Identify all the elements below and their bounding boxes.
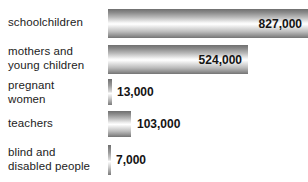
bar-value-label: 13,000 bbox=[117, 85, 154, 99]
category-label: mothers and young children bbox=[8, 45, 84, 72]
bar: 524,000 bbox=[108, 45, 248, 74]
bar-value-label: 524,000 bbox=[199, 53, 242, 67]
bar: 827,000 bbox=[108, 9, 308, 38]
bar bbox=[108, 111, 131, 137]
bar-track: 827,000 bbox=[108, 9, 308, 38]
category-label: pregnant women bbox=[8, 79, 54, 106]
horizontal-bar-chart: schoolchildren 827,000 mothers and young… bbox=[0, 0, 308, 182]
bar-track bbox=[108, 79, 112, 105]
bar-value-label: 827,000 bbox=[259, 17, 302, 31]
bar-track bbox=[108, 145, 111, 175]
bar-value-label: 7,000 bbox=[116, 153, 146, 167]
bar-value-label: 103,000 bbox=[137, 117, 180, 131]
bar-track bbox=[108, 111, 131, 137]
category-label: teachers bbox=[8, 117, 53, 131]
bar bbox=[108, 79, 112, 105]
bar-track: 524,000 bbox=[108, 45, 248, 74]
bar bbox=[108, 145, 111, 175]
category-label: schoolchildren bbox=[8, 16, 83, 30]
category-label: blind and disabled people bbox=[8, 146, 90, 173]
